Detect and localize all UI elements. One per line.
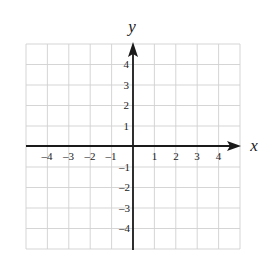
y-tick-label: 1	[124, 120, 130, 132]
x-tick-label: 2	[173, 150, 179, 162]
x-tick-label: 3	[194, 150, 200, 162]
y-tick-label: –3	[118, 202, 131, 214]
coordinate-plane: y x –4 –3 –2 –1 1 2 3 4 4 3 2 1 –1 –2 –3…	[0, 0, 271, 262]
x-axis-label: x	[249, 136, 258, 155]
x-tick-labels: –4 –3 –2 –1 1 2 3 4	[41, 150, 222, 162]
x-tick-label: –4	[41, 150, 54, 162]
y-tick-label: 4	[124, 58, 130, 70]
y-tick-label: 3	[124, 79, 130, 91]
x-tick-label: –1	[105, 150, 117, 162]
y-axis-label: y	[126, 17, 136, 36]
x-tick-label: –2	[84, 150, 96, 162]
y-tick-label: –1	[118, 161, 130, 173]
y-tick-label: 2	[124, 99, 130, 111]
x-tick-label: –3	[62, 150, 75, 162]
y-tick-label: –4	[118, 222, 131, 234]
y-tick-label: –2	[118, 181, 130, 193]
x-tick-label: 4	[216, 150, 222, 162]
x-tick-label: 1	[152, 150, 158, 162]
